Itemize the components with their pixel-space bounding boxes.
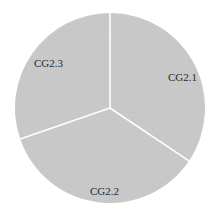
slice-label-cg2-1: CG2.1 <box>168 71 197 83</box>
slice-label-cg2-3: CG2.3 <box>34 57 64 69</box>
pie-chart: CG2.1 CG2.2 CG2.3 <box>0 0 220 211</box>
slice-label-cg2-2: CG2.2 <box>90 185 119 197</box>
